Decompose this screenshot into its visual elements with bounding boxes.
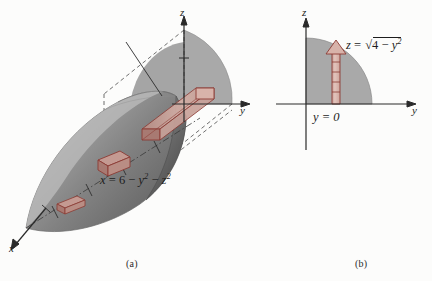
caption-b: (b) (355, 258, 367, 269)
eq-b-baseline-text: y = 0 (313, 110, 339, 124)
equation-baseline: y = 0 (313, 110, 339, 125)
radical-sign: √4 − y2 (364, 36, 401, 53)
eq-a-z-exponent: 2 (166, 171, 170, 181)
equation-semicircle: z = √4 − y2 (346, 36, 401, 53)
eq-a-equals: = (109, 173, 116, 187)
axis-label-z-a: z (180, 6, 184, 18)
equation-paraboloid: x = 6 − y2 − z2 (100, 171, 171, 188)
axis-label-y-b: y (412, 104, 417, 116)
panel-b: z y z = √4 − y2 y = 0 (b) (262, 0, 432, 281)
eq-b-equals: = (354, 38, 361, 52)
panel-a-graphic (0, 0, 262, 281)
axis-label-x-a: x (9, 242, 14, 254)
caption-a: (a) (126, 258, 138, 269)
panel-a: z y x x = 6 − y2 − z2 (a) (0, 0, 262, 281)
axis-label-y-a: y (240, 104, 245, 116)
radical-vinculum (373, 37, 401, 38)
figure-container: z y x x = 6 − y2 − z2 (a) (0, 0, 432, 281)
axis-label-z-b: z (302, 6, 306, 18)
eq-b-minus: − (381, 38, 388, 52)
